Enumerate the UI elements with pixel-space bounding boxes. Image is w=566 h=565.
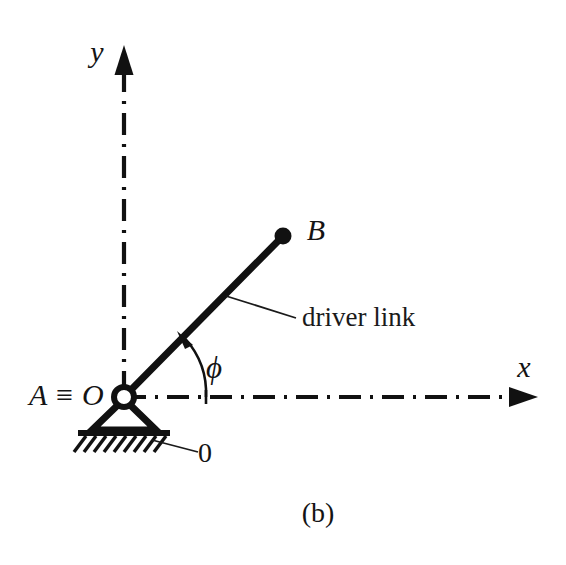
driver-link-label: driver link	[302, 302, 416, 332]
driver-link-leader-line	[226, 296, 296, 318]
angle-phi-label: ϕ	[206, 350, 222, 385]
leader-lines-group	[152, 296, 296, 452]
ground-hatching	[74, 436, 166, 452]
y-axis-label: y	[87, 35, 104, 68]
figure-caption: (b)	[302, 497, 335, 528]
mechanism-diagram: y x B A ≡ O 0 ϕ driver link (b)	[0, 0, 566, 565]
y-axis-arrowhead	[115, 45, 134, 75]
point-b-label: B	[307, 213, 325, 246]
figure-canvas: y x B A ≡ O 0 ϕ driver link (b)	[0, 0, 566, 565]
pivot-pin-circle	[114, 387, 134, 407]
ground-pivot-label: A ≡ O	[27, 378, 104, 411]
point-b-dot	[275, 228, 292, 245]
angle-phi-arc	[186, 339, 207, 397]
x-axis-group	[124, 387, 538, 407]
x-axis-label: x	[516, 350, 531, 383]
y-axis-group	[115, 45, 134, 400]
x-axis-arrowhead	[509, 387, 538, 407]
ground-link-label: 0	[198, 437, 212, 468]
